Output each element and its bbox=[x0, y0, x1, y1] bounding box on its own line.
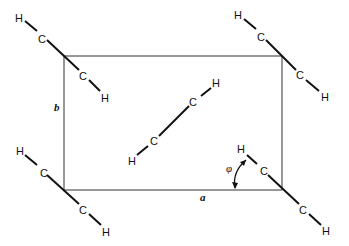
atom-h: H bbox=[212, 77, 220, 89]
atom-c: C bbox=[150, 135, 158, 147]
atom-c: C bbox=[189, 96, 197, 108]
atom-c: C bbox=[38, 33, 46, 45]
angle-phi-label: φ bbox=[226, 162, 232, 174]
atom-c: C bbox=[79, 70, 87, 82]
atom-c: C bbox=[257, 31, 265, 43]
atom-h: H bbox=[234, 9, 242, 21]
atom-h: H bbox=[128, 155, 136, 167]
atom-h: H bbox=[101, 92, 109, 104]
atom-h: H bbox=[16, 145, 24, 157]
atom-h: H bbox=[102, 226, 110, 238]
lattice-label-b: b bbox=[54, 101, 60, 113]
angle-phi-marker: φ bbox=[226, 160, 246, 189]
unit-cell-diagram: H C C H H C C H H C C H H C C H H bbox=[0, 0, 349, 246]
atom-h: H bbox=[15, 12, 23, 24]
atom-h: H bbox=[322, 225, 330, 237]
atom-c: C bbox=[296, 69, 304, 81]
atom-c: C bbox=[260, 165, 268, 177]
atom-c: C bbox=[79, 204, 87, 216]
molecule-center: H C C H bbox=[128, 77, 220, 167]
atom-h: H bbox=[321, 91, 329, 103]
molecule-top-left: H C C H bbox=[15, 12, 109, 104]
atom-c: C bbox=[299, 204, 307, 216]
atom-h: H bbox=[237, 143, 245, 155]
lattice-label-a: a bbox=[200, 191, 206, 203]
molecule-bottom-left: H C C H bbox=[16, 145, 110, 238]
atom-c: C bbox=[40, 167, 48, 179]
